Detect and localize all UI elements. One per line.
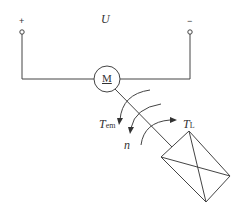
diagram-lines [0,0,245,213]
motor-diagram: + − U M Tem n TL [0,0,245,213]
torque-em-arrow-icon [120,90,150,120]
torque-load-label: TL [183,118,195,130]
minus-sign: − [187,17,192,26]
torque-em-label: Tem [99,118,115,130]
motor-label: M [102,73,112,84]
speed-arrow-icon [131,104,161,128]
negative-terminal-icon [188,30,192,34]
speed-label: n [124,139,130,151]
plus-sign: + [19,17,24,26]
voltage-label: U [101,13,110,25]
positive-terminal-icon [20,30,24,34]
